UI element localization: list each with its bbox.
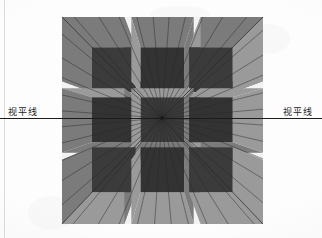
cell-bottom-center-inner-face bbox=[141, 147, 185, 192]
cell-top-center-inner-face bbox=[141, 47, 185, 92]
horizon-line bbox=[0, 118, 322, 119]
cell-middle-left-bevel-left bbox=[62, 88, 92, 152]
horizon-label-right: 视平线 bbox=[283, 105, 313, 118]
one-point-perspective-illustration bbox=[62, 17, 263, 224]
perspective-svg bbox=[62, 17, 263, 224]
page-margin-rule bbox=[4, 0, 5, 238]
horizon-label-left: 视平线 bbox=[8, 105, 38, 118]
cell-middle-right-bevel-right bbox=[233, 88, 263, 152]
cell-middle-left-inner-face bbox=[92, 97, 136, 142]
page-canvas: 视平线 视平线 bbox=[0, 0, 322, 238]
